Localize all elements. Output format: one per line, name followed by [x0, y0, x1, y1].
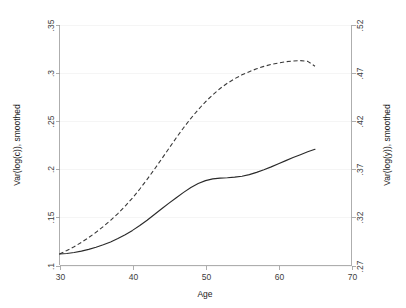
right-tick-label-1: .32	[355, 211, 365, 223]
left-tick-label-4: .3	[46, 70, 56, 77]
left-tick-label-2: .2	[46, 166, 56, 173]
x-tick-label-2: 50	[202, 272, 212, 282]
x-tick-label-4: 70	[348, 272, 358, 282]
right-tick-label-2: .37	[355, 163, 365, 175]
right-tick-label-3: .42	[355, 115, 365, 127]
left-tick-label-0: .1	[46, 263, 56, 270]
left-axis-title: Var(log(c)), smoothed	[12, 104, 22, 186]
chart-figure: .1.15.2.25.3.35 .27.32.37.42.47.52 30405…	[0, 0, 406, 308]
left-tick-label-5: .35	[46, 19, 56, 31]
x-tick-label-0: 30	[56, 272, 66, 282]
right-axis-title: Var(log(y)), smoothed	[382, 104, 392, 186]
chart-background	[0, 0, 406, 308]
right-tick-label-5: .52	[355, 19, 365, 31]
left-tick-label-3: .25	[46, 115, 56, 127]
right-tick-label-4: .47	[355, 67, 365, 79]
x-tick-label-1: 40	[129, 272, 139, 282]
x-axis-title: Age	[197, 289, 212, 299]
x-tick-label-3: 60	[275, 272, 285, 282]
left-tick-label-1: .15	[46, 211, 56, 223]
line-chart-svg: .1.15.2.25.3.35 .27.32.37.42.47.52 30405…	[0, 0, 406, 308]
